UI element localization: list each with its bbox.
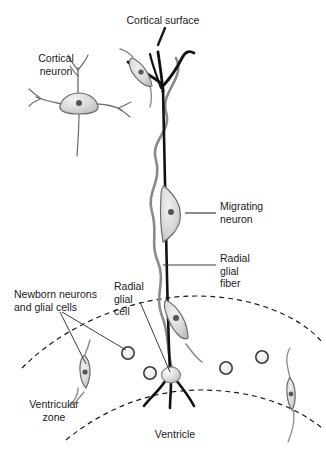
label-radial-glial-fiber: Radial glial fiber xyxy=(220,252,300,290)
label-cortical-surface: Cortical surface xyxy=(110,14,216,27)
progenitor-circle xyxy=(256,351,268,363)
label-cortical-neuron: Cortical neuron xyxy=(18,52,94,77)
label-ventricle: Ventricle xyxy=(140,428,210,441)
progenitor-circle xyxy=(220,362,232,374)
label-ventricular-zone: Ventricular zone xyxy=(10,398,98,423)
leader-cortical-surface xyxy=(158,28,165,45)
leader-lines xyxy=(60,28,216,404)
label-radial-glial-cell: Radial glial cell xyxy=(114,280,168,318)
migrating-neuron-upper xyxy=(120,49,152,107)
migrating-neuron-middle xyxy=(161,186,181,242)
leader-newborn-b xyxy=(62,312,126,350)
progenitor-circle xyxy=(144,367,156,379)
figure-root: Cortical surface Cortical neuron Migrati… xyxy=(0,0,326,450)
bipolar-cell-right xyxy=(287,348,295,442)
progenitor-cells xyxy=(122,347,268,379)
label-migrating-neuron: Migrating neuron xyxy=(220,200,310,225)
leader-newborn-a xyxy=(60,312,86,364)
